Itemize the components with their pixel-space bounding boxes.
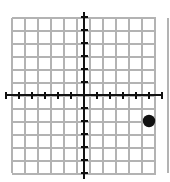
plotted-point-marker [143, 115, 155, 127]
data-point-layer [143, 115, 155, 127]
graph-canvas [0, 0, 170, 182]
coordinate-graph [0, 0, 170, 182]
